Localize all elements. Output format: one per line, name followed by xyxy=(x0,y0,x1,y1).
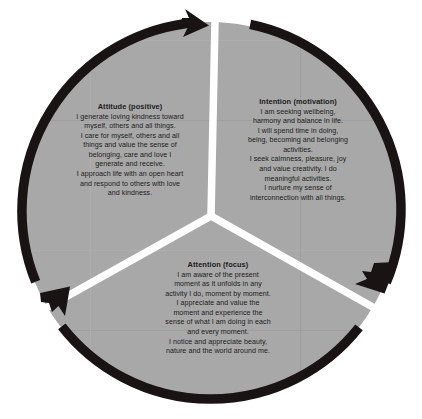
segment-attention-title: Attention (focus) xyxy=(140,259,296,270)
segment-attention: Attention (focus) I am aware of the pres… xyxy=(140,259,296,357)
segment-attitude-body: I generate loving kindness toward myself… xyxy=(50,113,210,199)
divider-top xyxy=(211,22,215,216)
segment-attitude-title: Attitude (positive) xyxy=(50,101,210,112)
divider-hub xyxy=(208,211,215,218)
segment-intention-title: Intention (motivation) xyxy=(228,96,368,107)
mindfulness-cycle-diagram: Attitude (positive) I generate loving ki… xyxy=(0,0,422,419)
segment-attitude: Attitude (positive) I generate loving ki… xyxy=(50,101,210,199)
segment-intention: Intention (motivation) I am seeking well… xyxy=(228,96,368,203)
segment-intention-body: I am seeking wellbeing, harmony and bala… xyxy=(228,108,368,204)
segment-attention-body: I am aware of the present moment as it u… xyxy=(140,271,296,357)
